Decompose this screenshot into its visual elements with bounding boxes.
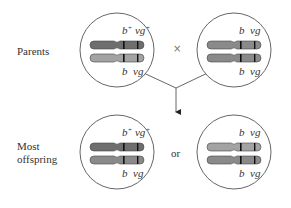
gene-band-vg bbox=[137, 41, 138, 49]
chromosome bbox=[207, 156, 261, 164]
chromosome bbox=[90, 143, 144, 151]
gene-band-vg bbox=[254, 143, 255, 151]
chromosome bbox=[207, 54, 261, 62]
gene-band-vg bbox=[137, 156, 138, 164]
gene-band-b bbox=[123, 41, 125, 49]
allele-label: b vg bbox=[122, 167, 144, 179]
gene-band-b bbox=[240, 156, 242, 164]
cell-parent-homozygous: b vgb vg bbox=[197, 13, 271, 87]
chromosome bbox=[207, 143, 261, 151]
gene-band-b bbox=[123, 143, 125, 151]
gene-band-vg bbox=[254, 156, 255, 164]
allele-label: b vg bbox=[239, 126, 261, 138]
cell-parent-dihybrid: b+ vg+b vg bbox=[80, 13, 154, 87]
gene-band-b bbox=[123, 156, 125, 164]
chromosome bbox=[90, 41, 144, 49]
cross-diagram: b+ vg+b vgb vgb vgb+ vg+b vgb vgb vg bbox=[0, 0, 291, 208]
allele-label: b vg bbox=[239, 65, 261, 77]
gene-band-vg bbox=[254, 54, 255, 62]
chromosome bbox=[90, 156, 144, 164]
gene-band-b bbox=[240, 143, 242, 151]
gene-band-vg bbox=[137, 54, 138, 62]
gene-band-b bbox=[240, 41, 242, 49]
gene-band-vg bbox=[137, 143, 138, 151]
cell-offspring-dihybrid: b+ vg+b vg bbox=[80, 115, 154, 189]
allele-label: b vg bbox=[122, 65, 144, 77]
chromosome bbox=[207, 41, 261, 49]
cell-offspring-homozygous: b vgb vg bbox=[197, 115, 271, 189]
gene-band-b bbox=[240, 54, 242, 62]
gene-band-b bbox=[123, 54, 125, 62]
allele-label: b vg bbox=[239, 167, 261, 179]
gene-band-vg bbox=[254, 41, 255, 49]
chromosome bbox=[90, 54, 144, 62]
allele-label: b vg bbox=[239, 24, 261, 36]
cross-connector bbox=[135, 69, 216, 112]
